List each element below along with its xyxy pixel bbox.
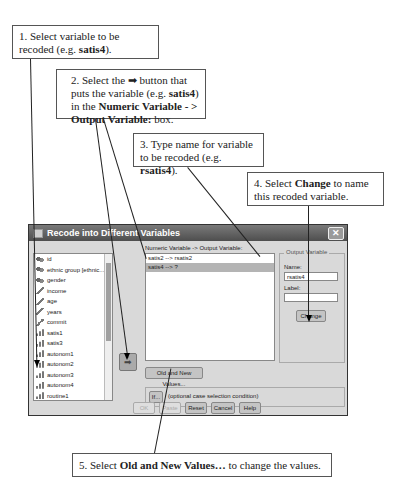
variable-list-item[interactable]: years [34,307,112,318]
variable-list-item[interactable]: ethnic group [ethnic... [34,265,112,276]
output-variable-group: Output Variable Name: rsatis4 Label: Cha… [279,253,345,363]
output-list-item[interactable]: satis2 --> rsatis2 [146,254,274,263]
variable-list-item[interactable]: autonom4 [34,380,112,391]
variable-list-item[interactable]: income [34,286,112,297]
scale-measure-icon [36,319,44,326]
variable-list-item[interactable]: satis3 [34,338,112,349]
callout-step-3: 3. Type name for variable to be recoded … [133,133,264,167]
ordinal-measure-icon [36,371,44,378]
close-icon[interactable]: ✕ [328,227,344,240]
name-label: Name: [284,264,302,270]
output-list-item-selected[interactable]: satis4 --> ? [146,263,274,272]
callout-step-5: 5. Select Old and New Values… to change … [72,453,332,477]
numeric-output-label: Numeric Variable -> Output Variable: [145,245,242,251]
variable-list-item[interactable]: autonom2 [34,359,112,370]
scroll-thumb[interactable] [106,263,111,341]
variable-name: age [47,298,57,304]
variable-list-item[interactable]: commit [34,317,112,328]
variable-list-scrollbar[interactable] [104,254,112,400]
variable-name: satis3 [47,340,63,346]
dialog-title: Recode into Different Variables [47,228,180,238]
variable-name: satis1 [47,330,63,336]
callout-step-4: 4. Select Change to name this recoded va… [247,172,384,206]
arrowhead-1 [34,360,40,367]
variable-name: autonom3 [47,372,74,378]
arrowhead-4 [306,315,312,322]
variable-name: autonom1 [47,351,74,357]
reset-button[interactable]: Reset [185,402,207,414]
dialog-titlebar: Recode into Different Variables ✕ [29,225,347,241]
help-button[interactable]: Help [239,402,261,414]
ordinal-measure-icon [36,382,44,389]
variable-name: years [47,309,62,315]
variable-name: commit [47,319,66,325]
variable-name: ethnic group [ethnic... [47,267,104,273]
recode-dialog: Recode into Different Variables ✕ idethn… [28,224,348,416]
ordinal-measure-icon [36,329,44,336]
variable-name: income [47,288,66,294]
variable-list-item[interactable]: routine1 [34,391,112,402]
variable-list-item[interactable]: id [34,254,112,265]
variable-name: gender [47,277,66,283]
scale-measure-icon [36,298,44,305]
label-field[interactable] [284,293,338,302]
ok-button[interactable]: OK [133,402,155,414]
if-condition-text: (optional case selection condition) [168,393,258,399]
arrowhead-2 [124,353,130,360]
nominal-measure-icon [36,256,44,263]
nominal-measure-icon [36,266,44,273]
right-arrow-icon: ➡ [128,74,137,86]
nominal-measure-icon [36,277,44,284]
variable-name: id [47,256,52,262]
variable-name: routine1 [47,393,69,399]
variable-name: autonom4 [47,382,74,388]
old-and-new-values-button[interactable]: Old and New Values... [145,367,203,379]
cancel-button[interactable]: Cancel [211,402,235,414]
ordinal-measure-icon [36,340,44,347]
variable-list[interactable]: idethnic group [ethnic...genderincomeage… [33,253,113,401]
variable-list-item[interactable]: gender [34,275,112,286]
pointer-line-4 [308,206,309,318]
label-label: Label: [284,285,300,291]
variable-list-item[interactable]: satis1 [34,328,112,339]
numeric-output-list[interactable]: satis2 --> rsatis2 satis4 --> ? [145,253,275,361]
name-field[interactable]: rsatis4 [284,272,338,281]
output-variable-legend: Output Variable [284,249,329,255]
variable-list-item[interactable]: age [34,296,112,307]
scale-measure-icon [36,308,44,315]
variable-list-item[interactable]: autonom1 [34,349,112,360]
callout-step-2: 2. Select the ➡ button that puts the var… [56,69,206,119]
scale-measure-icon [36,287,44,294]
ordinal-measure-icon [36,392,44,399]
variable-name: autonom2 [47,361,74,367]
callout-step-1: 1. Select variable to be recoded (e.g. s… [12,25,159,59]
variable-list-item[interactable]: autonom3 [34,370,112,381]
